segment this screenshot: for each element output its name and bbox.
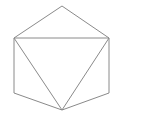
figure-background	[0, 0, 146, 124]
geometry-figure	[0, 0, 146, 124]
